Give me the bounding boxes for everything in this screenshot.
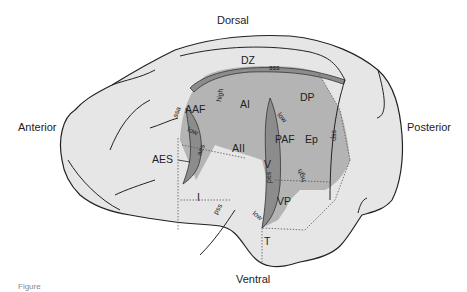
figure-caption: Figure xyxy=(18,282,41,291)
label-aaf: AAF xyxy=(185,103,205,115)
label-ai: AI xyxy=(240,98,250,110)
label-t: T xyxy=(264,235,271,247)
label-aes-region: AES xyxy=(152,153,173,165)
label-v: V xyxy=(264,158,271,170)
label-ssp: ssp xyxy=(330,130,338,141)
label-posterior: Posterior xyxy=(407,121,451,133)
label-ventral: Ventral xyxy=(236,273,270,285)
label-ep: Ep xyxy=(305,133,318,145)
label-paf: PAF xyxy=(275,133,295,145)
label-dorsal: Dorsal xyxy=(217,14,249,26)
label-sss: sss xyxy=(269,64,280,71)
label-dp: DP xyxy=(300,91,315,103)
label-aii: AII xyxy=(232,142,245,154)
label-anterior: Anterior xyxy=(18,121,57,133)
label-pes: pes xyxy=(265,171,273,183)
label-i: I xyxy=(197,191,200,203)
label-vp: VP xyxy=(277,195,291,207)
label-dz: DZ xyxy=(241,54,256,66)
brain-diagram: Dorsal Ventral Anterior Posterior DZ AI … xyxy=(0,0,467,292)
